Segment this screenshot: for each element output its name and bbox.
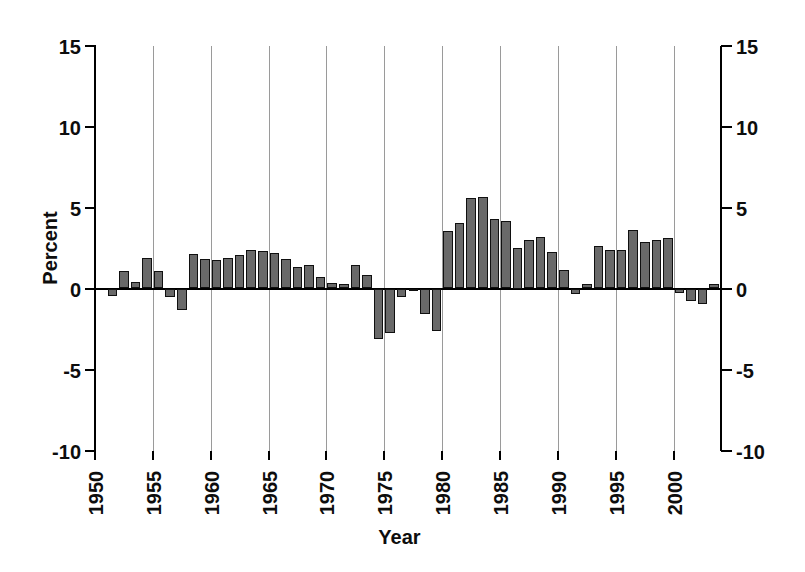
bar-1951 — [108, 289, 118, 296]
bar-1965 — [270, 253, 280, 289]
bar-1971 — [339, 284, 349, 289]
right-ytick-15 — [721, 45, 732, 47]
bar-1974 — [374, 289, 384, 339]
xtick-1985 — [499, 451, 501, 460]
xtick-1990 — [557, 451, 559, 460]
bar-1994 — [605, 250, 615, 289]
bar-1987 — [524, 240, 534, 289]
bar-1998 — [652, 240, 662, 289]
right-ytick--10 — [721, 450, 732, 452]
xtick-1970 — [325, 451, 327, 460]
right-ytick-label-0: 0 — [736, 280, 747, 300]
xtick-2000 — [673, 451, 675, 460]
left-ytick--5 — [85, 369, 96, 371]
bar-1996 — [628, 230, 638, 288]
left-ytick-label--5: -5 — [63, 361, 81, 381]
xtick-1950 — [94, 451, 96, 460]
left-ytick-label-0: 0 — [70, 280, 81, 300]
right-ytick-label--10: -10 — [736, 442, 765, 462]
bar-1962 — [235, 255, 245, 288]
bar-1980 — [443, 231, 453, 289]
bar-2001 — [686, 289, 696, 302]
bar-1955 — [154, 271, 164, 288]
bar-1975 — [385, 289, 395, 334]
xtick-1975 — [383, 451, 385, 460]
left-ytick-label-15: 15 — [59, 37, 81, 57]
bar-1983 — [478, 197, 488, 289]
bar-1963 — [246, 250, 256, 289]
bar-1986 — [513, 248, 523, 289]
right-ytick-label-10: 10 — [736, 118, 758, 138]
bar-1989 — [547, 252, 557, 288]
bar-1978 — [420, 289, 430, 314]
bar-1997 — [640, 242, 650, 289]
xtick-label-1965: 1965 — [260, 470, 280, 515]
xtick-label-1970: 1970 — [317, 470, 337, 515]
xtick-label-1985: 1985 — [491, 470, 511, 515]
gridline-1965 — [269, 46, 270, 451]
bar-1964 — [258, 251, 268, 288]
bar-1960 — [212, 260, 222, 288]
bar-1957 — [177, 289, 187, 310]
left-ytick-label-10: 10 — [59, 118, 81, 138]
bar-chart-figure: 151510105500-5-5-10-10195019551960196519… — [0, 0, 805, 572]
bar-1993 — [594, 246, 604, 288]
left-ytick-5 — [85, 207, 96, 209]
bar-1985 — [501, 221, 511, 288]
right-ytick-5 — [721, 207, 732, 209]
bar-1979 — [432, 289, 442, 332]
gridline-1970 — [326, 46, 327, 451]
bar-1958 — [189, 254, 199, 288]
bar-1969 — [316, 277, 326, 288]
xtick-1960 — [210, 451, 212, 460]
bar-1956 — [165, 289, 175, 297]
bar-2003 — [709, 284, 719, 289]
bar-2002 — [698, 289, 708, 304]
bar-1966 — [281, 259, 291, 288]
xtick-label-1960: 1960 — [202, 470, 222, 515]
bar-1977 — [409, 289, 419, 291]
left-ytick-0 — [85, 288, 96, 290]
bar-1976 — [397, 289, 407, 298]
bar-1953 — [131, 282, 141, 288]
left-ytick-15 — [85, 45, 96, 47]
gridline-2000 — [674, 46, 675, 451]
bar-1968 — [304, 265, 314, 288]
left-ytick-label-5: 5 — [70, 199, 81, 219]
left-ytick-label--10: -10 — [52, 442, 81, 462]
right-ytick--5 — [721, 369, 732, 371]
bar-1982 — [466, 198, 476, 289]
bar-1970 — [327, 283, 337, 289]
bar-1984 — [490, 219, 500, 289]
bar-1967 — [293, 267, 303, 288]
bar-1988 — [536, 237, 546, 288]
xtick-1965 — [268, 451, 270, 460]
gridline-1990 — [558, 46, 559, 451]
right-axis-spine — [720, 46, 722, 451]
xtick-label-1995: 1995 — [607, 470, 627, 515]
xtick-1995 — [615, 451, 617, 460]
xtick-label-1980: 1980 — [433, 470, 453, 515]
xtick-label-1955: 1955 — [144, 470, 164, 515]
bar-1991 — [571, 289, 581, 295]
bar-1992 — [582, 284, 592, 288]
right-ytick-label-5: 5 — [736, 199, 747, 219]
right-ytick-10 — [721, 126, 732, 128]
x-axis-title: Year — [378, 527, 420, 547]
bar-1972 — [351, 265, 361, 288]
left-axis-spine — [94, 46, 96, 451]
bar-1999 — [663, 238, 673, 288]
bar-2000 — [675, 289, 685, 293]
right-ytick-0 — [721, 288, 732, 290]
bar-1981 — [455, 223, 465, 289]
xtick-1980 — [441, 451, 443, 460]
gridline-1960 — [211, 46, 212, 451]
gridline-1975 — [384, 46, 385, 451]
xtick-label-2000: 2000 — [665, 470, 685, 515]
xtick-label-1950: 1950 — [86, 470, 106, 515]
bar-1959 — [200, 259, 210, 289]
right-ytick-label--5: -5 — [736, 361, 754, 381]
gridline-1955 — [153, 46, 154, 451]
bar-1954 — [142, 258, 152, 289]
xtick-1955 — [152, 451, 154, 460]
